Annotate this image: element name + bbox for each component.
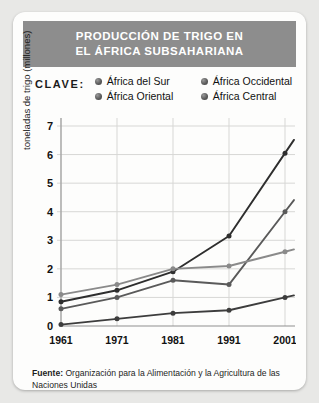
chart-header-bar: PRODUCCIÓN DE TRIGO EN EL ÁFRICA SUBSAHA… xyxy=(23,21,296,67)
data-point xyxy=(283,209,288,214)
x-axis-tick: 1961 xyxy=(49,334,73,346)
legend-marker-icon xyxy=(95,93,102,100)
legend-marker-icon xyxy=(95,78,102,85)
data-point xyxy=(171,278,176,283)
legend-item-africa-oriental: África Oriental xyxy=(95,90,201,102)
legend-marker-icon xyxy=(201,93,208,100)
data-point xyxy=(59,306,64,311)
y-axis-tick: 2 xyxy=(47,263,53,275)
chart-card: PRODUCCIÓN DE TRIGO EN EL ÁFRICA SUBSAHA… xyxy=(13,12,306,390)
data-point xyxy=(59,299,64,304)
y-axis-tick: 6 xyxy=(47,149,53,161)
y-axis-tick: 4 xyxy=(47,206,54,218)
x-axis-tick: 2001 xyxy=(273,334,296,346)
y-axis-tick: 5 xyxy=(47,177,53,189)
chart-legend: CLAVE: África del Sur África Occidental … xyxy=(23,72,296,112)
data-point xyxy=(227,264,232,269)
source-prefix: Fuente: xyxy=(32,368,63,378)
legend-item-africa-central: África Central xyxy=(201,90,306,102)
data-point xyxy=(227,308,232,313)
data-point xyxy=(227,282,232,287)
data-point xyxy=(283,151,288,156)
y-axis-tick: 0 xyxy=(47,320,53,332)
chart-plot-area: toneladas de trigo (millones) 0123456719… xyxy=(23,112,296,360)
chart-title-line-2: EL ÁFRICA SUBSAHARIANA xyxy=(75,44,243,59)
y-axis-tick: 1 xyxy=(47,291,53,303)
y-axis-tick: 7 xyxy=(47,120,53,132)
data-point xyxy=(115,295,120,300)
y-axis-tick: 3 xyxy=(47,234,53,246)
data-point xyxy=(283,295,288,300)
legend-item-label: África Oriental xyxy=(107,90,174,102)
x-axis-tick: 1971 xyxy=(105,334,129,346)
legend-item-label: África Occidental xyxy=(213,75,292,87)
legend-item-label: África del Sur xyxy=(107,75,170,87)
legend-label: CLAVE: xyxy=(35,78,85,90)
legend-item-label: África Central xyxy=(213,90,277,102)
legend-item-africa-del-sur: África del Sur xyxy=(95,75,201,87)
x-axis-tick: 1991 xyxy=(217,334,241,346)
chart-source-note: Fuente: Organización para la Alimentació… xyxy=(32,368,290,390)
legend-item-africa-occidental: África Occidental xyxy=(201,75,306,87)
data-point xyxy=(59,322,64,327)
data-point xyxy=(227,234,232,239)
data-point xyxy=(283,249,288,254)
data-point xyxy=(115,282,120,287)
data-point xyxy=(115,316,120,321)
data-point xyxy=(59,292,64,297)
source-text: Organización para la Alimentación y la A… xyxy=(32,368,280,390)
series-africa-oriental xyxy=(59,249,294,297)
series-africa-central xyxy=(59,295,294,327)
data-point xyxy=(171,266,176,271)
x-axis-tick: 1981 xyxy=(161,334,185,346)
legend-marker-icon xyxy=(201,78,208,85)
data-point xyxy=(171,311,176,316)
series-africa-del-sur xyxy=(59,140,294,304)
data-point xyxy=(115,288,120,293)
line-chart-svg: 0123456719611971198119912001 xyxy=(23,112,296,360)
legend-items: África del Sur África Occidental África … xyxy=(95,75,306,102)
chart-title-line-1: PRODUCCIÓN DE TRIGO EN xyxy=(76,29,244,44)
